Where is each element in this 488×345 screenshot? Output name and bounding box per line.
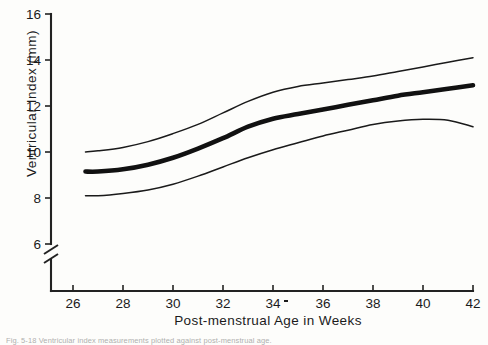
y-axis-title: Ventricular Index (mm) xyxy=(24,9,39,199)
tick-labels: 6810121416262830323436384042 xyxy=(26,7,481,311)
x-tick-label: 30 xyxy=(165,296,180,311)
curve-mean xyxy=(86,85,474,171)
x-tick-label: 40 xyxy=(415,296,430,311)
x-tick-label: 32 xyxy=(215,296,230,311)
curve-upper xyxy=(86,58,474,152)
x-axis-title: Post-menstrual Age in Weeks xyxy=(174,313,362,328)
x-tick-label: 26 xyxy=(65,296,80,311)
x-tick-label: 42 xyxy=(465,296,480,311)
x-tick-label: 28 xyxy=(115,296,130,311)
y-tick-label: 6 xyxy=(33,237,41,252)
data-curves xyxy=(86,58,474,196)
axis-break-slash-1 xyxy=(44,245,58,254)
x-tick-label: 36 xyxy=(315,296,330,311)
axes xyxy=(44,14,473,291)
x-tick-label: 38 xyxy=(365,296,380,311)
tick-marks xyxy=(45,14,473,291)
x-tick-label: 34 xyxy=(265,296,281,311)
curve-lower xyxy=(86,119,474,196)
figure-caption: Fig. 5-18 Ventricular index measurements… xyxy=(6,336,272,345)
stray-ink-mark xyxy=(284,300,288,302)
